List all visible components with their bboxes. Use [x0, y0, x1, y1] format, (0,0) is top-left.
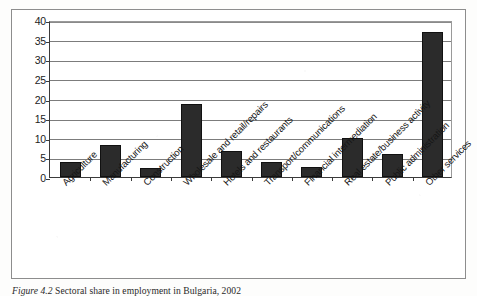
y-axis-tick-mark [46, 22, 50, 23]
y-axis-tick-label: 5 [40, 152, 46, 164]
y-axis-tick-label: 15 [35, 113, 46, 125]
y-axis-tick-mark [46, 42, 50, 43]
scanned-page: 0510152025303540 AgricultureManufacturin… [0, 0, 477, 296]
y-axis-tick-label: 10 [35, 133, 46, 145]
y-axis-tick-label: 40 [35, 15, 46, 27]
y-axis-tick-label: 0 [40, 172, 46, 184]
y-axis-tick-mark [46, 81, 50, 82]
y-axis-tick-label: 25 [35, 74, 46, 86]
y-axis-tick-mark [46, 120, 50, 121]
x-axis-category-labels: AgricultureManufacturingConstructionWhol… [49, 180, 452, 275]
figure-caption-text: Sectoral share in employment in Bulgaria… [55, 285, 241, 296]
y-axis-tick-label: 20 [35, 94, 46, 106]
y-axis-tick-mark [46, 101, 50, 102]
y-axis-tick-labels: 0510152025303540 [22, 21, 46, 178]
figure-frame: 0510152025303540 AgricultureManufacturin… [11, 9, 466, 279]
chart-container: 0510152025303540 AgricultureManufacturin… [12, 10, 467, 280]
y-axis-tick-mark [46, 159, 50, 160]
figure-caption-label: Figure 4.2 [12, 285, 53, 296]
y-axis-tick-label: 35 [35, 35, 46, 47]
y-axis-tick-mark [46, 61, 50, 62]
y-axis-tick-label: 30 [35, 54, 46, 66]
y-axis-tick-mark [46, 140, 50, 141]
figure-caption: Figure 4.2 Sectoral share in employment … [12, 285, 462, 296]
